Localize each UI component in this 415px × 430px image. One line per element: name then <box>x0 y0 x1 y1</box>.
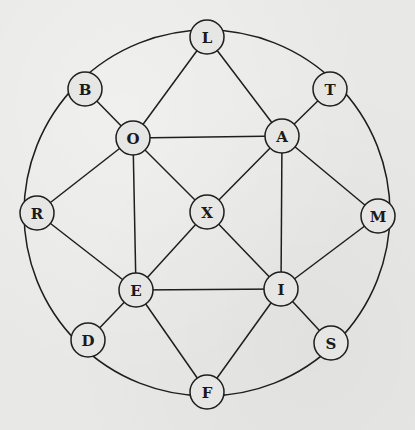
node-label: A <box>275 128 288 146</box>
edge-i-f <box>207 289 281 392</box>
node-b: B <box>68 72 102 106</box>
node-m: M <box>361 199 395 233</box>
node-i: I <box>264 272 298 306</box>
edge-a-m <box>282 136 378 216</box>
node-f: F <box>190 375 224 409</box>
node-label: L <box>202 29 213 47</box>
node-label: M <box>370 208 387 226</box>
node-x: X <box>190 195 224 229</box>
nodes: LBTOARXMEIDSF <box>20 20 395 409</box>
edge-o-e <box>133 138 136 290</box>
node-l: L <box>190 20 224 54</box>
node-label: T <box>324 81 336 99</box>
edge-a-i <box>281 136 282 289</box>
edge-o-r <box>37 138 133 213</box>
edge-e-f <box>136 290 207 392</box>
edge-l-a <box>207 37 282 136</box>
node-label: F <box>202 384 213 402</box>
node-a: A <box>265 119 299 153</box>
edge-r-e <box>37 213 136 290</box>
edge-m-i <box>281 216 378 289</box>
node-label: X <box>201 204 213 222</box>
node-s: S <box>314 326 348 360</box>
node-o: O <box>116 121 150 155</box>
edge-e-i <box>136 289 281 290</box>
edge-l-o <box>133 37 207 138</box>
node-r: R <box>20 196 54 230</box>
node-e: E <box>119 273 153 307</box>
graph-canvas: LBTOARXMEIDSF <box>0 0 415 430</box>
node-label: I <box>277 281 284 299</box>
node-d: D <box>71 323 105 357</box>
node-label: B <box>79 81 92 99</box>
node-label: D <box>81 332 94 350</box>
edge-o-a <box>133 136 282 138</box>
node-label: R <box>31 205 44 223</box>
node-t: T <box>313 72 347 106</box>
node-label: E <box>130 282 141 300</box>
node-label: O <box>126 130 139 148</box>
node-label: S <box>326 335 337 353</box>
graph-diagram: LBTOARXMEIDSF <box>0 0 415 430</box>
